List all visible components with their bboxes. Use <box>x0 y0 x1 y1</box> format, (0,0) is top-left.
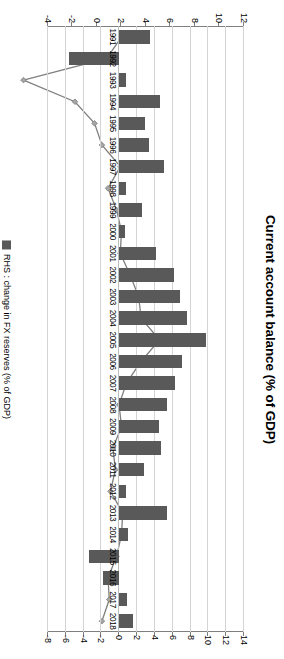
gridline-right--2 <box>100 26 101 632</box>
axis-tick-right-4: 4 <box>150 635 160 657</box>
bar-2010 <box>119 441 161 454</box>
gridline-right-4 <box>154 26 155 632</box>
category-label-1998: 1998 <box>108 180 117 197</box>
bar-2006 <box>119 355 181 368</box>
axis-tick-left--4: -4 <box>43 1 53 23</box>
axis-tick-left-2: 2 <box>117 1 127 23</box>
chart-title: Current account balance (% of GDP) <box>263 0 278 659</box>
bar-2017 <box>119 593 127 606</box>
bar-2009 <box>119 420 159 433</box>
plot-area: 14121086420-2-4-6-8121086420-2-419911992… <box>48 26 244 632</box>
axis-tick-left-12: 12 <box>239 1 249 23</box>
bar-2004 <box>119 311 187 324</box>
axis-tick-left-10: 10 <box>215 1 225 23</box>
bar-2013 <box>119 506 167 519</box>
legend-swatch-fx-reserves <box>3 240 12 249</box>
category-label-2004: 2004 <box>108 310 117 327</box>
category-label-2015: 2015 <box>108 548 117 565</box>
legend-label-fx-reserves: RHS : change in FX reserves (% of GDP) <box>2 254 12 419</box>
chart-rotation-wrapper: Current account balance (% of GDP) 14121… <box>0 0 284 659</box>
line-series-svg <box>48 26 244 632</box>
category-label-2006: 2006 <box>108 353 117 370</box>
gridline-right-14 <box>243 26 244 632</box>
category-label-1997: 1997 <box>108 158 117 175</box>
bar-1995 <box>119 117 145 130</box>
category-label-2010: 2010 <box>108 440 117 457</box>
gridline-right--6 <box>65 26 66 632</box>
axis-tick-right-0: 0 <box>114 635 124 657</box>
axis-tick-right--4: -4 <box>79 635 89 657</box>
bar-2012 <box>119 485 126 498</box>
axis-tick-right--2: -2 <box>96 635 106 657</box>
gridline-right--4 <box>83 26 84 632</box>
category-label-1996: 1996 <box>108 137 117 154</box>
category-label-1999: 1999 <box>108 202 117 219</box>
axis-tick-left-4: 4 <box>141 1 151 23</box>
axis-tick-right-10: 10 <box>203 635 213 657</box>
gridline-right-12 <box>225 26 226 632</box>
category-label-2000: 2000 <box>108 223 117 240</box>
gridline-right-6 <box>172 26 173 632</box>
bar-1991 <box>119 30 150 43</box>
category-label-1993: 1993 <box>108 72 117 89</box>
category-label-2017: 2017 <box>108 591 117 608</box>
category-label-2008: 2008 <box>108 396 117 413</box>
axis-tick-left-8: 8 <box>190 1 200 23</box>
bar-2005 <box>119 333 205 346</box>
bar-2001 <box>119 247 156 260</box>
bar-2003 <box>119 290 180 303</box>
category-label-2007: 2007 <box>108 375 117 392</box>
bar-1997 <box>119 160 164 173</box>
category-label-2011: 2011 <box>108 462 117 478</box>
gridline-right--8 <box>47 26 48 632</box>
category-label-2002: 2002 <box>108 267 117 284</box>
axis-tick-right-12: 12 <box>221 635 231 657</box>
bar-1993 <box>119 73 126 86</box>
category-label-2005: 2005 <box>108 332 117 349</box>
axis-tick-right-14: 14 <box>239 635 249 657</box>
axis-tick-right-2: 2 <box>132 635 142 657</box>
axis-tick-right--6: -6 <box>61 635 71 657</box>
category-label-1992: 1992 <box>108 50 117 67</box>
line-marker-1993 <box>21 77 27 83</box>
bar-1998 <box>119 182 126 195</box>
category-label-2016: 2016 <box>108 570 117 587</box>
axis-tick-left-0: 0 <box>92 1 102 23</box>
category-label-2003: 2003 <box>108 288 117 305</box>
bar-1994 <box>119 95 160 108</box>
chart-legend: RHS : change in FX reserves (% of GDP) <box>2 240 12 419</box>
axis-tick-right-8: 8 <box>186 635 196 657</box>
axis-tick-left--2: -2 <box>68 1 78 23</box>
gridline-right-10 <box>207 26 208 632</box>
bar-2002 <box>119 268 173 281</box>
bar-2018 <box>119 614 132 627</box>
chart-canvas: Current account balance (% of GDP) 14121… <box>0 0 284 659</box>
category-label-1994: 1994 <box>108 93 117 110</box>
category-label-2001: 2001 <box>108 245 117 262</box>
axis-tick-left-6: 6 <box>166 1 176 23</box>
category-label-2013: 2013 <box>108 505 117 522</box>
bar-2011 <box>119 463 144 476</box>
category-label-2018: 2018 <box>108 613 117 630</box>
category-label-2009: 2009 <box>108 418 117 435</box>
bar-2008 <box>119 398 167 411</box>
category-label-1995: 1995 <box>108 115 117 132</box>
bar-1996 <box>119 138 148 151</box>
bar-1999 <box>119 203 141 216</box>
axis-tick-right-6: 6 <box>168 635 178 657</box>
bar-2007 <box>119 376 174 389</box>
category-label-2012: 2012 <box>108 483 117 500</box>
category-label-1991: 1991 <box>108 29 117 46</box>
category-label-2014: 2014 <box>108 526 117 543</box>
bar-2014 <box>119 528 128 541</box>
axis-tick-right--8: -8 <box>43 635 53 657</box>
gridline-right-8 <box>190 26 191 632</box>
bar-2000 <box>119 225 124 238</box>
